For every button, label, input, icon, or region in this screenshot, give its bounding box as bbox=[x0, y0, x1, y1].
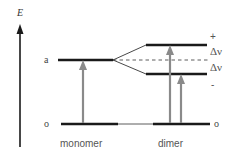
energy-level-diagram: E a o + Δν Δν - o monomer dimer bbox=[0, 0, 237, 157]
excited-state-label: a bbox=[44, 54, 49, 65]
arrowhead-icon bbox=[177, 74, 185, 84]
ground-state-label-left: o bbox=[44, 118, 49, 129]
dimer-transition-arrow-lower bbox=[177, 74, 185, 123]
arrowhead-icon bbox=[79, 60, 87, 70]
energy-axis-label: E bbox=[16, 7, 23, 18]
dimer-transition-arrow-upper bbox=[166, 45, 174, 123]
monomer-label: monomer bbox=[60, 138, 103, 149]
minus-state-label: - bbox=[211, 79, 214, 90]
monomer-transition-arrow bbox=[79, 60, 87, 123]
dimer-label: dimer bbox=[158, 138, 184, 149]
splitting-upper-label: Δν bbox=[210, 45, 222, 57]
arrowhead-icon bbox=[166, 45, 174, 55]
plus-state-label: + bbox=[210, 31, 216, 42]
energy-axis bbox=[17, 24, 24, 147]
ground-state-label-right: o bbox=[214, 118, 219, 129]
axis-arrowhead-icon bbox=[17, 24, 24, 34]
splitting-lower-label: Δν bbox=[210, 61, 222, 73]
split-line-upper bbox=[113, 45, 146, 60]
split-line-lower bbox=[113, 60, 146, 74]
